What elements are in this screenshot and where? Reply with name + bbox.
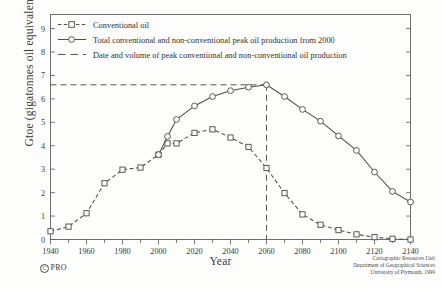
data-point-square [246,144,251,149]
data-point-square [174,141,179,146]
plot-frame [51,15,411,240]
credit-line-1: Cartographic Resources Unit [372,255,435,262]
copyright-mark: CPRO [40,263,67,273]
data-point-square [228,135,233,140]
y-tick-label: 7 [41,71,45,80]
data-point-square [390,236,395,241]
series-line [159,85,411,202]
data-point-square [66,224,71,229]
copyright-text: PRO [51,263,67,272]
legend-entry-conventional-oil[interactable]: Conventional oil [58,21,150,30]
legend-entry-peak-date[interactable]: Date and volume of peak conventional and… [58,51,348,60]
credit-line-2: Department of Geographical Sciences [353,262,435,269]
legend-label: Conventional oil [93,21,150,30]
data-point-square [354,232,359,237]
data-point-square [210,127,215,132]
data-point-square [138,165,143,170]
data-point-circle [210,94,216,100]
data-point-circle [336,133,342,139]
data-point-circle [282,94,288,100]
data-point-circle [165,133,171,139]
data-point-circle [246,84,252,90]
legend-marker-square [69,22,75,28]
y-tick-label: 0 [41,236,45,245]
chart-canvas: 0 1 2 3 4 5 6 7 8 9 [0,0,441,289]
data-point-square [84,211,89,216]
data-point-square [165,141,170,146]
chart-legend: Conventional oil Total conventional and … [58,21,348,60]
credit-line-3: University of Plymouth, 1999 [371,269,435,276]
data-point-circle [156,152,162,158]
data-point-square [264,165,269,170]
data-point-square [282,190,287,195]
data-point-circle [300,107,306,113]
series-layer [48,82,414,242]
data-point-circle [318,118,324,124]
y-tick-label: 3 [41,165,45,174]
y-tick-label: 6 [41,95,45,104]
data-point-circle [408,199,414,205]
legend-entry-total-oil[interactable]: Total conventional and non-conventional … [58,36,335,45]
data-point-circle [372,169,378,175]
y-tick-label: 1 [41,212,45,221]
y-tick-label: 5 [41,118,45,127]
y-tick-label: 8 [41,48,45,57]
data-point-circle [264,82,270,88]
legend-marker-circle [69,37,75,43]
data-point-square [408,237,413,242]
data-point-square [48,229,53,234]
y-axis-title: Gtoe (gigatonnes oil equivalent) [23,0,35,146]
data-point-circle [228,88,234,94]
y-axis-title-wrap: Gtoe (gigatonnes oil equivalent) [19,0,37,179]
y-axis-tick-labels: 0 1 2 3 4 5 6 7 8 9 [41,25,45,245]
y-axis-ticks [51,29,411,240]
data-point-circle [354,148,360,154]
data-point-circle [192,103,198,109]
data-point-square [318,222,323,227]
data-point-square [120,167,125,172]
data-point-square [372,235,377,240]
data-point-circle [174,117,180,123]
copyright-circle-icon: C [40,264,49,273]
data-point-square [102,181,107,186]
y-tick-label: 9 [41,25,45,34]
data-point-square [336,228,341,233]
data-point-square [300,212,305,217]
series-total-oil [156,82,414,205]
legend-label: Total conventional and non-conventional … [93,36,335,45]
x-axis-ticks [51,240,411,245]
chart-figure: 0 1 2 3 4 5 6 7 8 9 [0,0,441,289]
y-tick-label: 4 [41,142,45,151]
y-tick-label: 2 [41,189,45,198]
data-point-square [192,130,197,135]
legend-label: Date and volume of peak conventional and… [93,51,348,60]
data-point-circle [390,189,396,195]
series-conventional-oil [48,127,413,242]
